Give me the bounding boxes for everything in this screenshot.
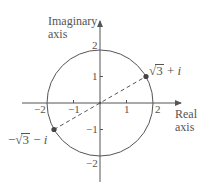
- y-tick-label-1: 1: [92, 71, 98, 82]
- radicand: 3: [21, 133, 30, 146]
- point-minus-sqrt3-minus-i: [51, 127, 56, 132]
- imaginary-unit: i: [44, 132, 48, 147]
- point-sqrt3-plus-i: [143, 74, 148, 79]
- label-operator: +: [164, 63, 178, 78]
- y-tick-label-minus-2: −2: [86, 158, 98, 169]
- x-tick-label-1: 1: [124, 104, 130, 115]
- radicand: 3: [155, 64, 164, 77]
- label-sqrt3-plus-i: √3 + i: [149, 64, 181, 77]
- origin-dot: [99, 102, 101, 104]
- label-minus-sqrt3-minus-i: −√3 − i: [8, 133, 47, 146]
- real-axis-title-line2: axis: [175, 121, 197, 134]
- complex-plane-diagram: [0, 0, 205, 189]
- imaginary-axis-title-line2: axis: [48, 28, 97, 41]
- y-tick-label-2: 2: [92, 40, 98, 51]
- imaginary-axis-title: Imaginary axis: [48, 15, 97, 41]
- x-tick-label-2: 2: [155, 104, 161, 115]
- real-axis-title: Real axis: [175, 108, 197, 134]
- imaginary-unit: i: [177, 63, 181, 78]
- y-tick-label-minus-1: −1: [86, 124, 98, 135]
- label-operator: −: [30, 132, 44, 147]
- x-tick-label-minus-2: −2: [34, 104, 46, 115]
- x-tick-label-minus-1: −1: [68, 104, 80, 115]
